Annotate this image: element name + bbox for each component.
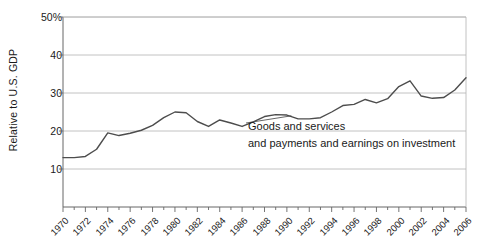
chart-container: Relative to U.S. GDP 50%40302010 1970197…	[0, 0, 482, 246]
annotation-line-1: Goods and services	[248, 120, 345, 132]
axis-lines	[63, 17, 466, 207]
annotation-line-2: and payments and earnings on investment	[248, 137, 455, 149]
plot-area	[0, 0, 482, 246]
x-axis-ticks	[63, 207, 466, 212]
y-axis-ticks	[59, 17, 63, 169]
